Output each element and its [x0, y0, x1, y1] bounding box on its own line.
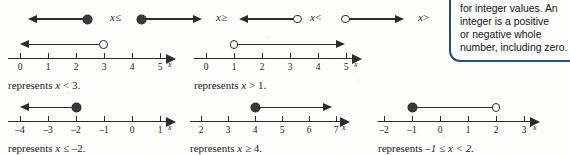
- axis-line: [8, 58, 168, 59]
- tick-label: 2: [494, 125, 499, 135]
- axis-tick: [346, 53, 347, 58]
- key-ray: [247, 18, 297, 19]
- axis-tick: [160, 53, 161, 58]
- axis-tick: [20, 53, 21, 58]
- tick-label: 5: [344, 62, 349, 72]
- solution-ray: [238, 44, 338, 45]
- caption-x-lt-3: represents x < 3.: [8, 79, 80, 91]
- tick-label: 1: [232, 62, 237, 72]
- solution-ray: [28, 107, 78, 108]
- endpoint-open-circle: [230, 40, 239, 49]
- caption-prefix: represents: [190, 142, 237, 154]
- tick-label: 4: [130, 62, 135, 72]
- axis-line: [190, 121, 344, 122]
- axis-line: [378, 121, 533, 122]
- key-item-less-equal: [28, 10, 98, 32]
- caption-value: –2.: [72, 142, 86, 154]
- axis-tick: [290, 53, 291, 58]
- caption-op: ≤: [60, 142, 72, 154]
- tick-label: 1: [466, 125, 471, 135]
- tick-label: 4: [253, 125, 258, 135]
- caption-neg1-le-x-lt-2: represents –1 ≤ x < 2.: [378, 142, 474, 154]
- solution-ray: [259, 107, 325, 108]
- axis-variable-label: x: [168, 60, 172, 69]
- tick-label: 0: [18, 62, 23, 72]
- tick-label: –3: [43, 125, 53, 135]
- tick-label: 1: [158, 125, 163, 135]
- caption-prefix: represents: [194, 79, 241, 91]
- axis-tick: [76, 116, 77, 121]
- callout-note: for integer values. An integer is a posi…: [449, 0, 570, 62]
- arrow-right-icon: [193, 15, 202, 23]
- tick-label: 2: [199, 125, 204, 135]
- tick-label: 6: [307, 125, 312, 135]
- caption-x-gt-1: represents x > 1.: [194, 79, 266, 91]
- axis-line: [194, 58, 354, 59]
- axis-tick: [48, 53, 49, 58]
- axis-tick: [132, 116, 133, 121]
- solution-segment: [416, 107, 496, 108]
- key-label-less-than: x<: [310, 11, 321, 23]
- key-item-less-than: [239, 10, 309, 32]
- key-item-greater-equal: [137, 10, 209, 32]
- key-ray: [145, 18, 195, 19]
- arrow-right-icon: [323, 103, 332, 111]
- tick-label: 3: [226, 125, 231, 135]
- caption-prefix: represents: [8, 142, 55, 154]
- note-line: integer is a positive: [460, 15, 570, 28]
- key-ray: [349, 18, 397, 19]
- key-label-less-equal: x≤: [110, 11, 121, 23]
- key-item-greater-than: [341, 10, 413, 32]
- tick-label: 2: [260, 62, 265, 72]
- axis-tick: [412, 116, 413, 121]
- key-label-greater-equal: x≥: [216, 11, 227, 23]
- axis-tick: [318, 53, 319, 58]
- axis-tick: [336, 116, 337, 121]
- tick-label: 2: [74, 62, 79, 72]
- axis-tick: [20, 116, 21, 121]
- tick-label: 3: [522, 125, 527, 135]
- caption-prefix: represents: [8, 79, 55, 91]
- endpoint-filled-dot: [72, 103, 81, 112]
- axis-tick: [48, 116, 49, 121]
- arrow-right-icon: [395, 15, 404, 23]
- axis-tick: [384, 116, 385, 121]
- tick-label: –4: [15, 125, 25, 135]
- solution-ray: [28, 44, 100, 45]
- tick-label: 0: [130, 125, 135, 135]
- tick-label: 7: [334, 125, 339, 135]
- axis-tick: [104, 53, 105, 58]
- axis-tick: [160, 116, 161, 121]
- caption-x-ge-4: represents x ≥ 4.: [190, 142, 262, 154]
- key-label-greater-than: x>: [418, 11, 429, 23]
- axis-tick: [440, 116, 441, 121]
- axis-tick: [234, 53, 235, 58]
- caption-value: 4.: [254, 142, 262, 154]
- axis-tick: [282, 116, 283, 121]
- caption-x-le-neg2: represents x ≤ –2.: [8, 142, 86, 154]
- tick-label: 1: [46, 62, 51, 72]
- axis-tick: [104, 116, 105, 121]
- caption-value: –1 ≤ x < 2.: [425, 142, 474, 154]
- tick-label: 4: [316, 62, 321, 72]
- endpoint-open-circle: [293, 15, 302, 24]
- arrow-right-icon: [336, 40, 345, 48]
- key-op: ≥: [221, 11, 227, 23]
- caption-value: 3.: [72, 79, 80, 91]
- tick-label: 5: [280, 125, 285, 135]
- axis-variable-label: x: [533, 123, 537, 132]
- note-line: number, including zero.: [460, 41, 570, 54]
- key-op: ≤: [115, 11, 121, 23]
- axis-variable-label: x: [168, 123, 172, 132]
- axis-tick: [262, 53, 263, 58]
- key-op: >: [423, 11, 429, 23]
- axis-tick: [206, 53, 207, 58]
- tick-label: –1: [99, 125, 109, 135]
- tick-label: 3: [102, 62, 107, 72]
- axis-line: [8, 121, 168, 122]
- axis-tick: [309, 116, 310, 121]
- axis-tick: [132, 53, 133, 58]
- axis-tick: [255, 116, 256, 121]
- caption-op: <: [60, 79, 72, 91]
- axis-tick: [201, 116, 202, 121]
